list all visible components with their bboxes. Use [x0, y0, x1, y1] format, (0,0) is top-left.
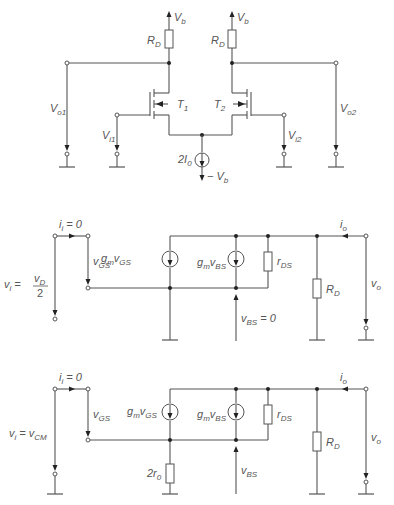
vbs-arrow: [234, 294, 239, 341]
circuit-diagram: Vb RD T1 Vb RD: [0, 0, 394, 505]
vo2-terminal: [334, 61, 338, 65]
gm-vbs-source: [228, 251, 244, 267]
neg-supply-label: − Vb: [207, 170, 229, 185]
supply-arrow-right: [230, 11, 235, 30]
rd-right-resistor: [228, 30, 236, 48]
input-terminal-right: [86, 387, 90, 391]
t2-label: T2: [214, 98, 226, 113]
vi-arrow: [47, 391, 63, 494]
output-terminal: [364, 387, 368, 391]
node-rd-top: [315, 387, 319, 391]
t1-label: T1: [177, 98, 188, 113]
vd-denominator: 2: [37, 287, 43, 299]
vi2-terminal: [282, 113, 286, 117]
r0-label: 2r0: [146, 467, 162, 482]
vi2-label: Vi2: [288, 129, 302, 144]
rds-resistor: [264, 252, 272, 271]
gm-vgs-label: gmvGS: [127, 405, 158, 420]
differential-mode-equivalent: ii = 0 vi = vD 2 vGS gmvGS: [4, 218, 382, 341]
node-rds-top: [266, 234, 270, 238]
input-terminal-left: [53, 234, 57, 238]
ii-arrow: [69, 387, 75, 392]
ii-label: ii = 0: [59, 371, 83, 386]
rds-label: rDS: [277, 408, 292, 423]
input-terminal-right: [86, 234, 90, 238]
vbs-label: vBS: [241, 464, 258, 479]
common-mode-equivalent: ii = 0 vi = vCM vGS 2r0 gmvGS: [9, 371, 382, 494]
transistor-t1: [117, 89, 169, 135]
source-node: [168, 286, 172, 290]
source-terminal: [86, 438, 90, 442]
input-terminal-left: [53, 387, 57, 391]
io-label: io: [340, 218, 347, 233]
drain-node-right: [230, 61, 234, 65]
r0-resistor: [166, 464, 174, 483]
gm-vbs-source: [228, 404, 244, 420]
vo1-terminal: [65, 61, 69, 65]
vi1-terminal: [115, 113, 119, 117]
rd-left-label: RD: [147, 34, 161, 49]
neg-supply-arrow: [200, 175, 205, 181]
source-terminal: [86, 286, 90, 290]
ii-arrow: [69, 234, 75, 239]
rds-label: rDS: [277, 255, 292, 270]
node-gm-vbs-bottom: [234, 438, 238, 442]
vo2-label: Vo2: [340, 102, 357, 117]
node-gm-vbs-bottom: [234, 286, 238, 290]
gm-vbs-label: gmvBS: [197, 256, 227, 271]
differential-amplifier: Vb RD T1 Vb RD: [50, 11, 357, 185]
vb-left-label: Vb: [174, 11, 186, 26]
vgs-arrow: [86, 238, 91, 285]
source-node: [168, 438, 172, 442]
rd-right-label: RD: [211, 34, 225, 49]
node-gm-vbs-top: [234, 234, 238, 238]
tail-current-source: [195, 153, 209, 167]
vi-arrow: [53, 238, 58, 321]
rd-label: RD: [326, 283, 340, 298]
vi2-arrow: [276, 117, 292, 167]
supply-arrow-left: [167, 11, 172, 30]
rd-resistor: [313, 279, 321, 298]
vi-label: vi = vCM: [9, 427, 47, 442]
vb-right-label: Vb: [237, 11, 249, 26]
t1-body-arrow: [156, 101, 163, 107]
vo-arrow: [358, 238, 374, 340]
vo-label: vo: [371, 277, 382, 292]
drain-node-left: [167, 61, 171, 65]
gm-vgs-source: [162, 251, 178, 267]
rds-resistor: [264, 405, 272, 424]
gm-vbs-label: gmvBS: [197, 408, 227, 423]
vbs-label: vBS = 0: [241, 312, 277, 327]
vgs-arrow: [86, 391, 91, 437]
current-source-label: 2I0: [177, 153, 192, 168]
vo-label: vo: [371, 431, 382, 446]
node-gm-vbs-top: [234, 387, 238, 391]
vo2-arrow: [328, 65, 344, 167]
rd-resistor: [313, 432, 321, 451]
ii-label: ii = 0: [59, 218, 83, 233]
io-label: io: [340, 371, 347, 386]
vgs-label: vGS: [93, 408, 111, 423]
t2-body-arrow: [238, 101, 245, 107]
vd-numerator: vD: [34, 272, 46, 287]
vo1-label: Vo1: [50, 102, 66, 117]
vi-label: vi =: [4, 278, 21, 293]
vbs-arrow: [234, 446, 239, 494]
gm-vgs-source: [162, 404, 178, 420]
output-terminal: [364, 234, 368, 238]
node-rds-top: [266, 387, 270, 391]
io-arrow: [342, 234, 348, 239]
io-arrow: [342, 387, 348, 392]
node-rd-top: [315, 234, 319, 238]
rd-left-resistor: [165, 30, 173, 48]
transistor-t2: [232, 89, 284, 135]
vi1-label: Vi1: [102, 129, 116, 144]
rd-label: RD: [326, 436, 340, 451]
